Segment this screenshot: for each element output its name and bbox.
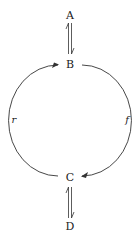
equilibrium-arrow-a-b	[66, 23, 74, 54]
node-a-label: A	[66, 10, 74, 21]
node-c-label: C	[66, 172, 74, 183]
reverse-label-r: r	[12, 115, 17, 125]
arrowhead-into-c-icon	[81, 172, 88, 178]
arc-right	[82, 65, 131, 176]
node-b-label: B	[66, 59, 74, 70]
forward-arc-f	[81, 65, 131, 178]
forward-label-f: f	[125, 115, 129, 125]
cycle-diagram	[0, 0, 140, 240]
node-d-label: D	[66, 221, 75, 232]
equilibrium-arrow-c-d	[66, 187, 74, 218]
